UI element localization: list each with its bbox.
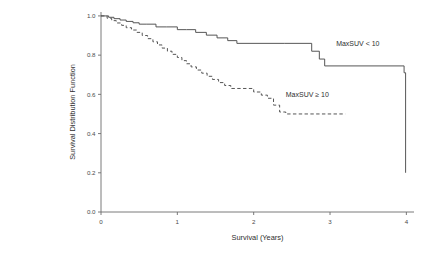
x-tick-label: 0 bbox=[99, 218, 103, 225]
y-tick-label: 1.0 bbox=[87, 12, 96, 19]
x-axis-ticks: 01234 bbox=[99, 212, 408, 225]
y-tick-label: 0.2 bbox=[87, 169, 96, 176]
y-tick-label: 0.0 bbox=[87, 208, 96, 215]
x-tick-label: 1 bbox=[176, 218, 180, 225]
y-tick-label: 0.8 bbox=[87, 51, 96, 58]
series-annotation-1: MaxSUV < 10 bbox=[336, 40, 379, 47]
series-annotation-2: MaxSUV ≥ 10 bbox=[286, 91, 329, 98]
y-tick-label: 0.6 bbox=[87, 91, 96, 98]
chart-canvas: 0.00.20.40.60.81.0 01234 MaxSUV < 10MaxS… bbox=[0, 0, 430, 254]
series-line-2 bbox=[101, 16, 345, 114]
kaplan-meier-survival-chart: 0.00.20.40.60.81.0 01234 MaxSUV < 10MaxS… bbox=[0, 0, 430, 254]
y-tick-label: 0.4 bbox=[87, 130, 96, 137]
x-tick-label: 4 bbox=[405, 218, 409, 225]
series-annotations: MaxSUV < 10MaxSUV ≥ 10 bbox=[286, 40, 380, 98]
y-axis-ticks: 0.00.20.40.60.81.0 bbox=[87, 12, 101, 215]
x-tick-label: 3 bbox=[328, 218, 332, 225]
y-axis-title: Survival Distribution Function bbox=[68, 64, 77, 160]
x-axis-title: Survival (Years) bbox=[232, 233, 284, 242]
x-tick-label: 2 bbox=[252, 218, 256, 225]
